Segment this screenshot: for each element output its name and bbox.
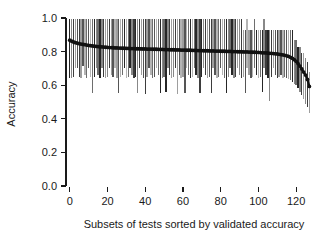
x-tick-label: 60: [177, 195, 189, 207]
accuracy-point-marker: [300, 67, 304, 71]
x-tick-label: 0: [67, 195, 73, 207]
y-tick-label: 0.4: [42, 113, 57, 125]
x-tick-label: 20: [101, 195, 113, 207]
y-axis-ticks: 0.00.20.40.60.81.0: [42, 12, 66, 192]
x-axis-title: Subsets of tests sorted by validated acc…: [84, 218, 305, 230]
accuracy-point-marker: [307, 84, 311, 88]
accuracy-point-marker: [304, 73, 308, 77]
x-axis-ticks: 020406080100120: [67, 187, 306, 207]
y-axis-title: Accuracy: [5, 81, 17, 127]
accuracy-chart-figure: 0.00.20.40.60.81.0 020406080100120 Accur…: [0, 0, 323, 242]
y-tick-label: 0.0: [42, 180, 57, 192]
y-tick-label: 1.0: [42, 12, 57, 24]
x-tick-label: 40: [139, 195, 151, 207]
accuracy-point-marker: [306, 78, 310, 82]
x-tick-label: 100: [249, 195, 267, 207]
y-tick-label: 0.2: [42, 146, 57, 158]
y-tick-label: 0.6: [42, 79, 57, 91]
errorbar-series: [70, 19, 310, 113]
x-tick-label: 80: [215, 195, 227, 207]
y-tick-label: 0.8: [42, 46, 57, 58]
x-tick-label: 120: [287, 195, 305, 207]
chart-canvas: 0.00.20.40.60.81.0 020406080100120 Accur…: [0, 0, 323, 242]
